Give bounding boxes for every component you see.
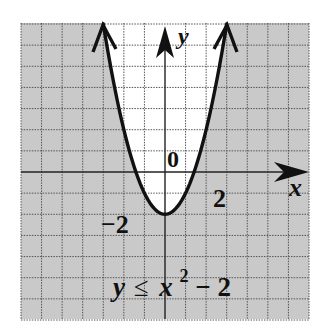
origin-label: 0 xyxy=(167,146,179,172)
x-axis-label: x xyxy=(288,173,302,202)
y-axis-label: y xyxy=(175,23,189,49)
x-tick-label-2: 2 xyxy=(213,184,226,213)
inequality-lhs: y xyxy=(110,272,126,302)
inequality-symbol: ≤ xyxy=(134,272,149,302)
inequality-exponent: 2 xyxy=(180,266,189,286)
inequality-rest: − 2 xyxy=(195,272,231,302)
y-tick-label-neg2: −2 xyxy=(101,210,129,239)
inequality-graph: y x 0 2 −2 y ≤ x 2 − 2 xyxy=(0,0,329,332)
inequality-base: x xyxy=(158,272,173,302)
